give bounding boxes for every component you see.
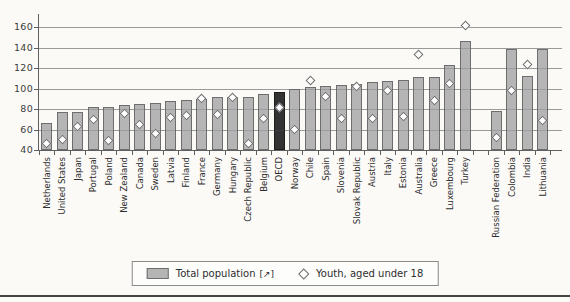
- y-axis: [38, 14, 39, 151]
- x-axis-label-australia: Australia: [414, 157, 425, 241]
- x-axis-label-luxembourg: Luxembourg: [445, 157, 456, 241]
- x-axis-tick: [256, 151, 257, 155]
- y-axis-tick-label: 140: [6, 43, 33, 53]
- x-axis-tick: [209, 151, 210, 155]
- y-axis-tick-label: 100: [6, 84, 33, 94]
- x-axis-tick: [116, 151, 117, 155]
- x-axis-label-poland: Poland: [104, 157, 115, 241]
- youth-marker-turkey: [460, 21, 470, 31]
- x-axis-label-austria: Austria: [367, 157, 378, 241]
- x-axis-tick: [550, 151, 551, 155]
- gridline-overlay: [38, 68, 562, 69]
- x-axis-label-slovenia: Slovenia: [336, 157, 347, 241]
- x-axis-label-portugal: Portugal: [88, 157, 99, 241]
- statlink-icon: [↗]: [259, 269, 274, 279]
- x-axis-tick: [318, 151, 319, 155]
- bar-norway: [289, 89, 300, 151]
- bar-russian-federation: [491, 111, 502, 150]
- bar-germany: [212, 97, 223, 150]
- bar-chile: [305, 87, 316, 150]
- bar-lithuania: [537, 49, 548, 150]
- x-axis-tick: [519, 151, 520, 155]
- legend-youth-label: Youth, aged under 18: [316, 268, 423, 279]
- x-axis-label-canada: Canada: [135, 157, 146, 241]
- x-axis-label-belgium: Belgium: [259, 157, 270, 241]
- x-axis-label-germany: Germany: [212, 157, 223, 241]
- gridline-overlay: [38, 130, 562, 131]
- x-axis-label-japan: Japan: [73, 157, 84, 241]
- x-axis-tick: [457, 151, 458, 155]
- x-axis-tick: [364, 151, 365, 155]
- x-axis-tick: [271, 151, 272, 155]
- x-axis-label-spain: Spain: [321, 157, 332, 241]
- y-axis-tick-label: 160: [6, 22, 33, 32]
- x-axis-label-france: France: [197, 157, 208, 241]
- page-bottom-rule: [0, 295, 570, 297]
- bar-france: [196, 99, 207, 150]
- legend-total-population-label: Total population: [176, 268, 256, 279]
- x-axis-label-united-states: United States: [57, 157, 68, 241]
- x-axis-label-slovak-republic: Slovak Republic: [352, 157, 363, 241]
- x-axis-tick: [240, 151, 241, 155]
- x-axis-label-lithuania: Lithuania: [538, 157, 549, 241]
- gridline-overlay: [38, 27, 562, 28]
- x-axis-label-new-zealand: New Zealand: [119, 157, 130, 241]
- youth-marker-chile: [305, 75, 315, 85]
- x-axis-tick: [70, 151, 71, 155]
- x-axis-tick: [535, 151, 536, 155]
- x-axis-label-colombia: Colombia: [507, 157, 518, 241]
- x-axis-tick: [163, 151, 164, 155]
- x-axis-tick: [426, 151, 427, 155]
- youth-marker-australia: [414, 50, 424, 60]
- x-axis-tick: [194, 151, 195, 155]
- y-axis-tick-label: 120: [6, 63, 33, 73]
- x-axis-tick: [333, 151, 334, 155]
- x-axis-label-oecd: OECD: [274, 157, 285, 241]
- x-axis-tick: [411, 151, 412, 155]
- legend-bar-swatch-icon: [147, 268, 169, 279]
- x-axis-tick: [101, 151, 102, 155]
- bar-colombia: [506, 49, 517, 150]
- x-axis-tick: [39, 151, 40, 155]
- population-projection-chart: Total population [↗] Youth, aged under 1…: [0, 0, 570, 302]
- x-axis-label-finland: Finland: [181, 157, 192, 241]
- gridline-overlay: [38, 109, 562, 110]
- x-axis-label-czech-republic: Czech Republic: [243, 157, 254, 241]
- x-axis-tick: [147, 151, 148, 155]
- x-axis-tick: [349, 151, 350, 155]
- x-axis-label-sweden: Sweden: [150, 157, 161, 241]
- x-axis-label-russian-federation: Russian Federation: [491, 157, 502, 241]
- bar-oecd: [274, 92, 285, 150]
- bar-turkey: [460, 41, 471, 150]
- x-axis-label-chile: Chile: [305, 157, 316, 241]
- x-axis-tick: [380, 151, 381, 155]
- bar-slovak-republic: [351, 84, 362, 150]
- x-axis-tick: [302, 151, 303, 155]
- bar-finland: [181, 100, 192, 150]
- y-axis-tick-label: 60: [6, 125, 33, 135]
- x-axis-tick: [504, 151, 505, 155]
- bar-india: [522, 76, 533, 150]
- x-axis-label-turkey: Turkey: [460, 157, 471, 241]
- legend-diamond-marker-icon: [298, 268, 309, 279]
- x-axis-label-india: India: [522, 157, 533, 241]
- x-axis-label-greece: Greece: [429, 157, 440, 241]
- gridline-overlay: [38, 89, 562, 90]
- x-axis-tick: [178, 151, 179, 155]
- y-axis-tick-label: 40: [6, 145, 33, 155]
- x-axis-label-latvia: Latvia: [166, 157, 177, 241]
- x-axis-tick: [488, 151, 489, 155]
- x-axis-label-netherlands: Netherlands: [42, 157, 53, 241]
- bar-hungary: [227, 97, 238, 150]
- x-axis-tick: [442, 151, 443, 155]
- x-axis-tick: [54, 151, 55, 155]
- x-axis-tick: [473, 151, 474, 155]
- x-axis-tick: [225, 151, 226, 155]
- x-axis-tick: [395, 151, 396, 155]
- x-axis-label-italy: Italy: [383, 157, 394, 241]
- x-axis-tick: [287, 151, 288, 155]
- legend: Total population [↗] Youth, aged under 1…: [132, 261, 439, 286]
- x-axis-label-hungary: Hungary: [228, 157, 239, 241]
- x-axis-tick: [132, 151, 133, 155]
- y-axis-tick-label: 80: [6, 104, 33, 114]
